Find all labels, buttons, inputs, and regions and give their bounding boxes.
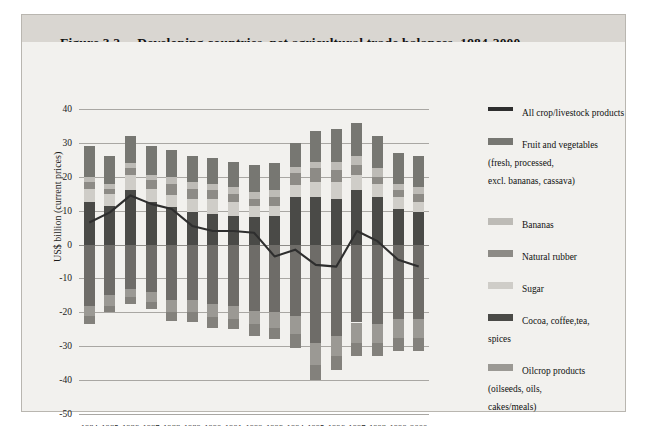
- y-axis-tick-label: -20: [59, 307, 72, 317]
- y-axis-tick-label: 20: [63, 172, 73, 182]
- legend-line-swatch: [488, 107, 513, 111]
- legend-color-swatch: [488, 364, 513, 371]
- legend-item: Bananas: [488, 214, 647, 232]
- y-axis-tick-label: -40: [59, 375, 72, 385]
- legend-item-label: Oilcrop products (oilseeds, oils, cakes/…: [488, 366, 585, 412]
- legend-color-swatch: [488, 314, 513, 321]
- legend-item-label: Fruit and vegetables (fresh, processed, …: [488, 140, 598, 186]
- y-axis-tick-label: -50: [59, 409, 72, 419]
- chart-panel: US$ billion (current prices) 403020100-1…: [22, 42, 625, 411]
- chart-legend: All crop/livestock productsFruit and veg…: [488, 102, 647, 426]
- plot-area: 403020100-10-20-30-40-50 198419851986198…: [79, 109, 429, 414]
- legend-item: Fruit and vegetables (fresh, processed, …: [488, 134, 647, 188]
- legend-item: Oilcrop products (oilseeds, oils, cakes/…: [488, 360, 647, 414]
- legend-item-label: Natural rubber: [522, 252, 577, 262]
- legend-color-swatch: [488, 138, 513, 145]
- legend-item-label: Sugar: [522, 284, 544, 294]
- legend-item-label: All crop/livestock products: [522, 108, 624, 118]
- x-axis-labels: 1984198519861987198819891990199119921993…: [79, 109, 429, 414]
- y-axis-tick-label: -10: [59, 273, 72, 283]
- legend-item: Sugar: [488, 278, 647, 296]
- y-axis-title: US$ billion (current prices): [52, 152, 63, 262]
- legend-item: All crop/livestock products: [488, 102, 647, 120]
- y-axis-tick-label: 30: [63, 138, 73, 148]
- figure-container: Figure 3.2Developing countries, net agri…: [0, 0, 647, 426]
- legend-item: Cocoa, coffee,tea, spices: [488, 310, 647, 346]
- y-axis-tick-label: 10: [63, 206, 73, 216]
- legend-color-swatch: [488, 282, 513, 289]
- legend-item-label: Bananas: [522, 220, 554, 230]
- legend-color-swatch: [488, 250, 513, 257]
- y-axis-tick-label: -30: [59, 341, 72, 351]
- y-axis-tick-label: 0: [67, 240, 72, 250]
- y-axis-tick-label: 40: [63, 104, 73, 114]
- figure-title-bar: Figure 3.2Developing countries, net agri…: [22, 15, 625, 42]
- legend-item: Natural rubber: [488, 246, 647, 264]
- gridline: [79, 414, 429, 415]
- legend-color-swatch: [488, 218, 513, 225]
